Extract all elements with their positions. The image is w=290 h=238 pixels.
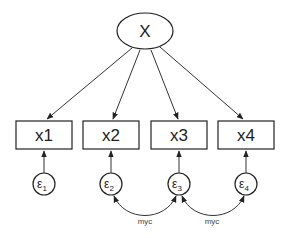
path-x-x1: [47, 48, 132, 119]
latent-node-x: X: [117, 13, 173, 49]
observed-label: x2: [102, 126, 120, 145]
observed-label: x1: [35, 126, 53, 145]
error-node-e3: ε3: [168, 173, 190, 195]
error-subscript: 1: [42, 184, 47, 193]
covariance-e2-e3: [114, 196, 176, 216]
error-node-e4: ε4: [235, 173, 257, 195]
error-node-e2: ε2: [100, 173, 122, 195]
error-node-e1: ε1: [33, 173, 55, 195]
observed-node-x2: x2: [83, 121, 139, 149]
error-subscript: 4: [244, 184, 249, 193]
covariance-label: myc: [138, 217, 153, 226]
path-x-x3: [151, 50, 178, 119]
error-subscript: 3: [177, 184, 182, 193]
observed-node-x1: x1: [16, 121, 72, 149]
observed-node-x3: x3: [151, 121, 207, 149]
observed-label: x4: [237, 126, 255, 145]
observed-label: x3: [170, 126, 188, 145]
covariance-label: myc: [205, 217, 220, 226]
path-x-x4: [160, 47, 243, 119]
sem-diagram: X x1 x2 x3 x4 ε1 ε2 ε3 ε4 myc myc: [0, 0, 290, 238]
observed-node-x4: x4: [218, 121, 274, 149]
latent-label: X: [139, 22, 150, 41]
error-subscript: 2: [109, 184, 114, 193]
covariance-e3-e4: [182, 196, 244, 216]
